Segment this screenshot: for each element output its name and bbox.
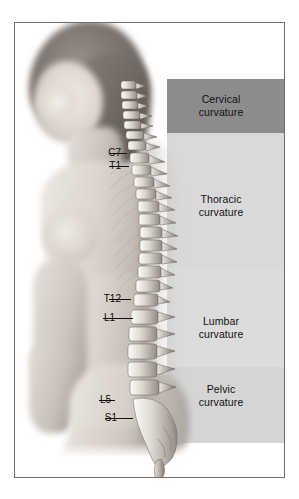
- caption-cervical-line1: Cervical: [165, 93, 277, 106]
- caption-cervical: Cervical curvature: [165, 93, 277, 118]
- caption-lumbar-line1: Lumbar: [165, 315, 277, 328]
- caption-thoracic: Thoracic curvature: [165, 193, 277, 218]
- spine-svg: [15, 23, 285, 478]
- caption-pelvic-line1: Pelvic: [165, 383, 277, 396]
- caption-pelvic: Pelvic curvature: [165, 383, 277, 408]
- leader-t12: [109, 299, 131, 300]
- sacrum-coccyx: [133, 398, 177, 478]
- caption-thoracic-line1: Thoracic: [165, 193, 277, 206]
- anatomy-figure: C7 T1 T12 L1 L5: [0, 0, 299, 499]
- caption-lumbar: Lumbar curvature: [165, 315, 277, 340]
- caption-pelvic-line2: curvature: [165, 396, 277, 409]
- leader-l1: [103, 318, 133, 319]
- vertebral-column: [15, 23, 284, 477]
- cervical-vertebrae: [121, 81, 160, 151]
- caption-lumbar-line2: curvature: [165, 328, 277, 341]
- caption-thoracic-line2: curvature: [165, 206, 277, 219]
- illustration-plate: C7 T1 T12 L1 L5: [14, 22, 285, 478]
- caption-cervical-line2: curvature: [165, 106, 277, 119]
- leader-t1: [109, 166, 129, 167]
- leader-c7: [109, 153, 127, 154]
- leader-s1: [105, 418, 133, 419]
- thoracic-vertebrae: [130, 153, 178, 306]
- leader-l5: [99, 400, 115, 401]
